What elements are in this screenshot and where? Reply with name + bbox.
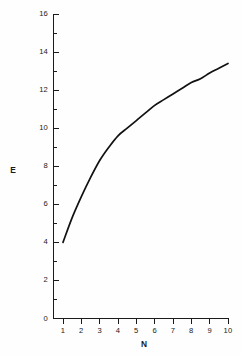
y-axis-tick-label: 14 xyxy=(39,47,48,56)
y-axis-tick-label: 6 xyxy=(44,199,48,208)
x-axis-title: N xyxy=(141,339,147,349)
x-axis-major-ticks xyxy=(63,319,228,325)
y-axis-tick-label: 16 xyxy=(39,9,48,18)
chart-canvas: 0246810121416 12345678910 E N xyxy=(0,0,241,357)
plot-area: 0246810121416 12345678910 xyxy=(39,9,232,335)
x-axis-tick-label: 3 xyxy=(97,326,101,335)
x-axis-tick-label: 2 xyxy=(79,326,83,335)
x-axis-tick-label: 1 xyxy=(61,326,65,335)
y-axis-tick-label: 2 xyxy=(44,275,48,284)
y-axis-tick-label: 4 xyxy=(44,237,48,246)
y-axis-title: E xyxy=(10,165,16,175)
y-axis-tick-label: 0 xyxy=(44,314,48,323)
x-axis-tick-label: 8 xyxy=(189,326,193,335)
y-axis-tick-label: 10 xyxy=(39,123,48,132)
y-axis-tick-label: 8 xyxy=(44,161,48,170)
y-axis-tick-label: 12 xyxy=(39,85,48,94)
x-axis-tick-label: 6 xyxy=(152,326,156,335)
chart-figure: 0246810121416 12345678910 E N xyxy=(0,0,241,357)
x-axis-tick-label: 9 xyxy=(207,326,211,335)
x-axis-tick-labels: 12345678910 xyxy=(61,326,233,335)
x-axis-tick-label: 7 xyxy=(171,326,175,335)
x-axis-tick-label: 10 xyxy=(224,326,233,335)
y-axis-major-ticks xyxy=(54,14,59,319)
x-axis-tick-label: 5 xyxy=(134,326,138,335)
data-series-line xyxy=(63,63,228,242)
x-axis-tick-label: 4 xyxy=(116,326,120,335)
y-axis-tick-labels: 0246810121416 xyxy=(39,9,48,323)
